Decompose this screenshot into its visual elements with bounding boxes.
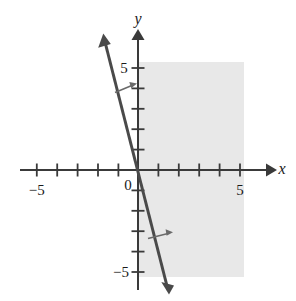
x-tick-label-minus5: −5 (29, 182, 45, 198)
boundary-line-bottom-arrowhead (161, 282, 174, 295)
x-tick-label-5: 5 (236, 182, 244, 198)
boundary-line-top-arrowhead (98, 34, 111, 48)
upper-shade-arrow (115, 82, 137, 93)
y-axis-arrowhead (132, 29, 145, 40)
coordinate-plane-svg: −5 5 5 −5 0 x y (0, 0, 296, 301)
x-axis-arrowhead (266, 164, 277, 177)
y-tick-label-5: 5 (120, 60, 128, 76)
origin-label: 0 (124, 177, 132, 193)
x-axis-label: x (277, 160, 285, 177)
y-axis-label: y (132, 10, 142, 28)
graph-figure: −5 5 5 −5 0 x y (0, 0, 296, 301)
y-tick-label-minus5: −5 (113, 264, 129, 280)
